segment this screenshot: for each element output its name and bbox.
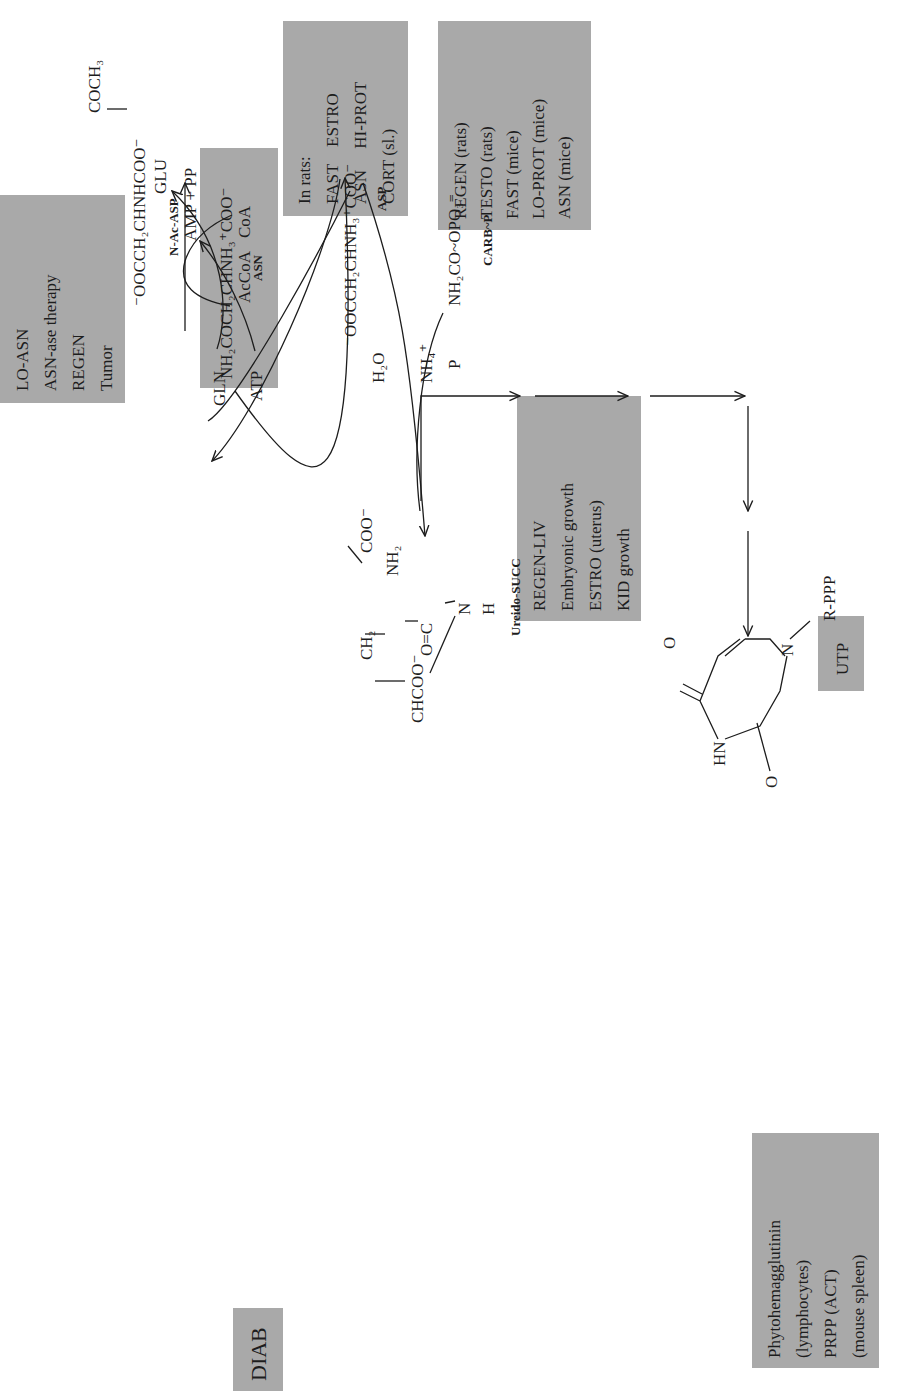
asp-formula: ⁻OOCCH₂CHNH₃⁺COO⁻	[341, 164, 360, 346]
reactant-p: P	[445, 360, 464, 369]
carb-p-formula: NH₂CO~OPO₃⁼	[445, 194, 464, 306]
box-lo-asn: LO-ASN ASN-ase therapy REGEN Tumor	[0, 195, 125, 403]
compound-utp: O HN O N R-PPP	[660, 576, 839, 788]
n-ac-asp-formula: ⁻OOCCH₂CHNHCOO⁻	[130, 139, 149, 306]
ureido-ch2: CH₂	[357, 630, 376, 660]
box-regen-liv-line: ESTRO (uterus)	[586, 500, 605, 611]
box-lo-asn-line: LO-ASN	[13, 329, 32, 391]
utp-ring-atom: O	[660, 637, 679, 649]
box-regen-liv-line: KID growth	[614, 528, 633, 611]
box-regen-rats-line: LO-PROT (mice)	[529, 99, 548, 219]
reactant-amp-pp: AMP + PP	[181, 168, 200, 241]
box-regen-liv: REGEN-LIV Embryonic growth ESTRO (uterus…	[517, 396, 641, 621]
ureido-path-seg-1	[421, 396, 520, 501]
reactant-h2o: H₂O	[369, 353, 388, 383]
box-regen-rats-line: TESTO (rats)	[477, 126, 496, 219]
box-phyto-line: PRPP (ACT)	[821, 1269, 840, 1358]
box-phyto-line: (lymphocytes)	[793, 1260, 812, 1358]
ureido-atom: COO⁻	[357, 508, 376, 553]
ureido-atom: H	[479, 603, 498, 615]
box-diab-text: DIAB	[246, 1327, 271, 1381]
ureido-chcoo: CHCOO⁻	[408, 655, 427, 723]
box-utp: UTP	[818, 616, 864, 691]
box-regen-liv-line: Embryonic growth	[558, 483, 577, 611]
reactant-atp: ATP	[247, 371, 266, 401]
compound-ureido-succ: O=C NH₂ COO⁻ CH₂ CH₂ N N H CHCOO⁻ CHCOO⁻…	[348, 508, 523, 723]
box-lo-asn-line: Tumor	[97, 345, 116, 391]
box-phyto-line: Phytohemagglutinin	[765, 1220, 784, 1358]
box-in-rats-line: In rats:	[295, 156, 314, 204]
box-phyto: Phytohemagglutinin (lymphocytes) PRPP (A…	[752, 1133, 879, 1368]
pathway-diagram: DIAB LO-ASN ASN-ase therapy REGEN Tumor …	[0, 0, 923, 1391]
utp-substituent: R-PPP	[820, 576, 839, 621]
utp-ring-atom: N	[778, 644, 797, 656]
box-regen-liv-line: REGEN-LIV	[530, 520, 549, 611]
ureido-atom: O=C	[417, 623, 436, 656]
ureido-label: Ureido-SUCC	[508, 558, 523, 636]
utp-label: UTP	[833, 643, 852, 675]
n-ac-asp-label: N-Ac-ASP	[166, 198, 181, 256]
box-lo-asn-line: ASN-ase therapy	[41, 274, 60, 391]
upright-canvas: DIAB LO-ASN ASN-ase therapy REGEN Tumor …	[0, 21, 879, 1391]
reactant-gln: GLN	[210, 371, 229, 406]
reactant-accoa: AcCoA	[235, 250, 254, 303]
asn-formula: NH₂COCH₂CHNH₃⁺COO⁻	[217, 187, 236, 379]
utp-ring-atom: O	[762, 776, 781, 788]
asp-label: ASP	[374, 186, 389, 211]
box-phyto-line: (mouse spleen)	[849, 1255, 868, 1358]
carb-p-label: CARB~P	[480, 214, 495, 266]
reactant-glu: GLU	[151, 159, 170, 194]
utp-ring-atom: HN	[710, 741, 729, 766]
box-regen-rats-line: FAST (mice)	[503, 130, 522, 219]
reactant-coa: CoA	[235, 205, 254, 238]
box-lo-asn-line: REGEN	[69, 334, 88, 391]
box-diab: DIAB	[233, 1308, 283, 1391]
ureido-n: N	[455, 603, 474, 615]
ureido-atom: NH₂	[383, 546, 402, 576]
n-ac-asp-substituent-text: COCH₃	[85, 60, 104, 113]
box-regen-rats-line: ASN (mice)	[555, 136, 574, 219]
